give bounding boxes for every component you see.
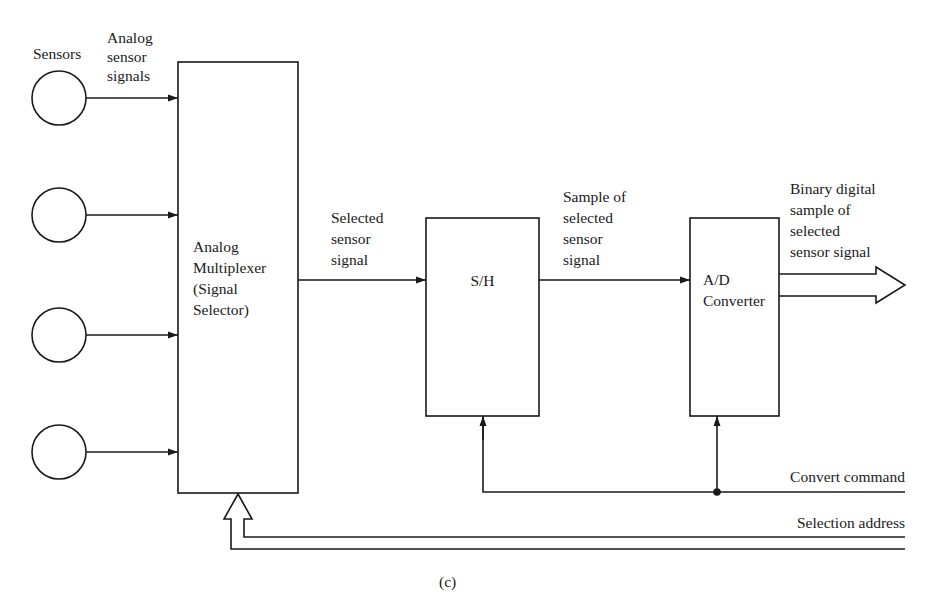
binary-output-line-4: sensor signal bbox=[790, 241, 876, 262]
binary-output-line-2: sample of bbox=[790, 199, 876, 220]
sensor-circle-2 bbox=[32, 188, 86, 242]
selected-signal-line-2: sensor bbox=[331, 228, 384, 249]
selected-signal-line-3: signal bbox=[331, 249, 384, 270]
sensor-circle-3 bbox=[32, 308, 86, 362]
sample-signal-line-4: signal bbox=[563, 249, 626, 270]
binary-output-label: Binary digital sample of selected sensor… bbox=[790, 178, 876, 262]
multiplexer-line-4: Selector) bbox=[193, 299, 266, 320]
sensors-label: Sensors bbox=[33, 44, 81, 63]
binary-output-line-1: Binary digital bbox=[790, 178, 876, 199]
convert-junction-dot bbox=[713, 488, 721, 496]
multiplexer-line-3: (Signal bbox=[193, 278, 266, 299]
analog-signals-line-2: sensor bbox=[107, 47, 153, 66]
sample-hold-label: S/H bbox=[426, 271, 539, 290]
sample-signal-line-1: Sample of bbox=[563, 186, 626, 207]
sample-signal-line-3: sensor bbox=[563, 228, 626, 249]
sample-hold-block bbox=[426, 218, 539, 416]
sample-signal-line-2: selected bbox=[563, 207, 626, 228]
binary-output-line-3: selected bbox=[790, 220, 876, 241]
multiplexer-line-2: Multiplexer bbox=[193, 257, 266, 278]
selection-address-label: Selection address bbox=[700, 513, 905, 532]
multiplexer-label: Analog Multiplexer (Signal Selector) bbox=[193, 236, 266, 320]
adc-line-1: A/D bbox=[703, 269, 765, 290]
adc-line-2: Converter bbox=[703, 290, 765, 311]
convert-command-label: Convert command bbox=[700, 467, 905, 486]
adc-label: A/D Converter bbox=[703, 269, 765, 311]
sensor-circle-4 bbox=[32, 425, 86, 479]
multiplexer-line-1: Analog bbox=[193, 236, 266, 257]
analog-signals-line-1: Analog bbox=[107, 28, 153, 47]
binary-output-arrow bbox=[779, 267, 905, 303]
selected-signal-line-1: Selected bbox=[331, 207, 384, 228]
analog-signals-label: Analog sensor signals bbox=[107, 28, 153, 85]
sensor-circle-1 bbox=[32, 71, 86, 125]
selected-signal-label: Selected sensor signal bbox=[331, 207, 384, 270]
analog-signals-line-3: signals bbox=[107, 66, 153, 85]
sample-signal-label: Sample of selected sensor signal bbox=[563, 186, 626, 270]
figure-caption: (c) bbox=[439, 572, 456, 591]
adc-block bbox=[690, 218, 779, 416]
